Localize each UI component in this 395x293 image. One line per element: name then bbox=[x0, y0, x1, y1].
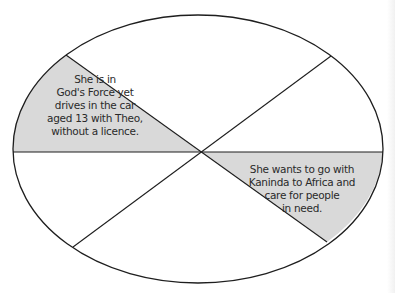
sector-label-upper-left: She is in God's Force yet drives in the … bbox=[30, 73, 160, 138]
divided-ellipse-diagram bbox=[0, 0, 395, 293]
sector-label-lower-right: She wants to go with Kaninda to Africa a… bbox=[232, 163, 372, 215]
